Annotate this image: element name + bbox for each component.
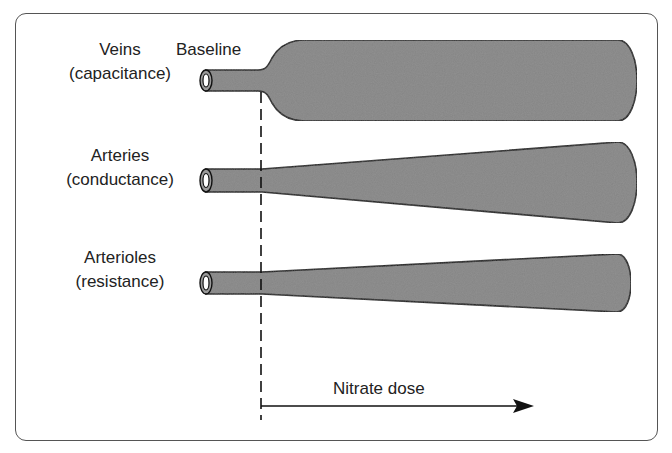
arterioles-role: (resistance) xyxy=(60,270,180,294)
nitrate-dose-label: Nitrate dose xyxy=(333,377,425,401)
arterioles-name: Arterioles xyxy=(60,246,180,270)
arteries-label: Arteries (conductance) xyxy=(60,144,180,192)
dose-arrow xyxy=(261,399,534,413)
vein-vessel xyxy=(200,40,637,121)
arteries-name: Arteries xyxy=(60,144,180,168)
baseline-label: Baseline xyxy=(176,38,241,62)
veins-label: Veins (capacitance) xyxy=(60,38,180,86)
veins-name: Veins xyxy=(60,38,180,62)
arterioles-label: Arterioles (resistance) xyxy=(60,246,180,294)
arteries-role: (conductance) xyxy=(60,168,180,192)
arteriole-vessel xyxy=(200,254,631,312)
artery-vessel xyxy=(200,142,637,223)
veins-role: (capacitance) xyxy=(60,62,180,86)
